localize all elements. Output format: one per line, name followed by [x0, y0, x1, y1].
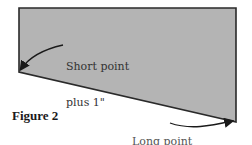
- short-point-line1: Short point: [66, 61, 129, 73]
- short-point-label: Short point plus 1": [66, 37, 129, 133]
- figure-caption: Figure 2: [12, 108, 58, 124]
- short-point-line2: plus 1": [66, 97, 129, 109]
- long-point-line1: Long point: [132, 136, 192, 145]
- figure-2-diagram: Short point plus 1" Long point plus 1" F…: [0, 0, 252, 145]
- long-point-label: Long point plus 1": [132, 112, 192, 145]
